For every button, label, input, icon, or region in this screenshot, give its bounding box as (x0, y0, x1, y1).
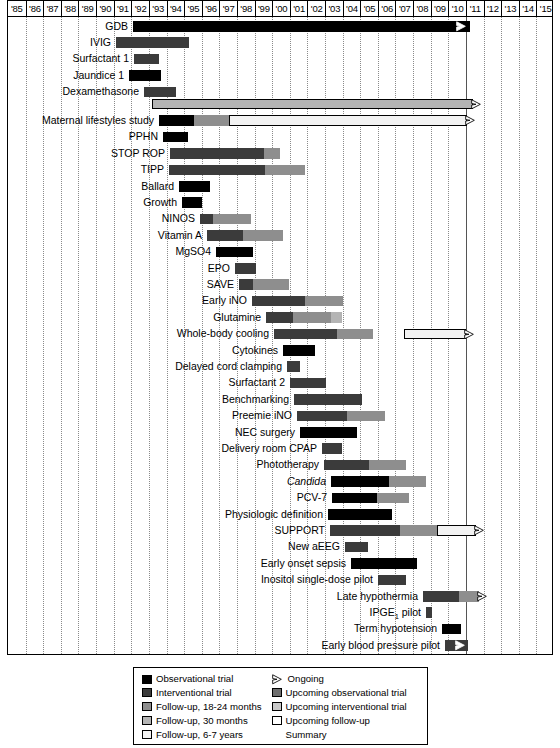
gantt-bar-segment[interactable] (423, 591, 459, 602)
gantt-row[interactable]: Early onset sepsis (8, 556, 553, 572)
gantt-row-label: Ballard (141, 179, 177, 195)
gantt-bar-segment[interactable] (347, 411, 385, 422)
gantt-bar-segment[interactable] (134, 54, 159, 65)
gantt-bar-segment[interactable] (265, 165, 305, 176)
gantt-row[interactable]: PCV-7 (8, 490, 553, 506)
gantt-row[interactable]: Glutamine (8, 310, 553, 326)
gantt-row[interactable]: Delivery room CPAP (8, 441, 553, 457)
gantt-bar-segment[interactable] (287, 361, 300, 372)
gantt-row[interactable]: IPGE1 pilot (8, 605, 553, 621)
gantt-bar-segment[interactable] (116, 37, 189, 48)
gantt-row[interactable]: NINOS (8, 211, 553, 227)
gantt-row[interactable]: Inositol single-dose pilot (8, 572, 553, 588)
gantt-bar-segment[interactable] (179, 181, 210, 192)
gantt-row[interactable]: EPO (8, 261, 553, 277)
gantt-bar-segment[interactable] (194, 115, 229, 126)
gantt-bar-segment[interactable] (207, 230, 243, 241)
gantt-bar-segment[interactable] (400, 525, 437, 536)
gantt-row[interactable]: Delayed cord clamping (8, 359, 553, 375)
gantt-bar-segment[interactable] (305, 296, 343, 307)
gantt-bar-segment[interactable] (377, 493, 409, 504)
gantt-row[interactable]: Early blood pressure pilot (8, 638, 553, 654)
gantt-bar-segment[interactable] (294, 394, 362, 405)
gantt-bar-segment[interactable] (252, 296, 305, 307)
gantt-bar-segment[interactable] (330, 525, 400, 536)
gantt-row[interactable]: Late hypothermia (8, 589, 553, 605)
gantt-bar-segment[interactable] (169, 165, 265, 176)
gantt-bar-segment[interactable] (442, 624, 461, 635)
gantt-bar-segment[interactable] (293, 312, 331, 323)
gantt-bar-segment[interactable] (300, 427, 357, 438)
gantt-bar-segment[interactable] (182, 197, 202, 208)
gantt-row[interactable]: Cytokines (8, 343, 553, 359)
gantt-row[interactable]: TIPP (8, 162, 553, 178)
gantt-row[interactable]: Surfactant 2 (8, 375, 553, 391)
gantt-row[interactable]: Preemie aEEG pilot (8, 654, 553, 655)
gantt-bar-segment[interactable] (235, 263, 256, 274)
gantt-bar-segment[interactable] (213, 214, 251, 225)
legend-swatch-followup-18-24 (142, 702, 152, 711)
legend-item: Follow-up, 18-24 months (142, 701, 262, 713)
gantt-row[interactable]: Term hypotension (8, 621, 553, 637)
gantt-bar-segment[interactable] (331, 476, 389, 487)
gantt-bar-segment[interactable] (266, 312, 293, 323)
gantt-bar-segment[interactable] (351, 558, 417, 569)
gantt-bar-segment[interactable] (389, 476, 426, 487)
gantt-bar-segment[interactable] (324, 460, 369, 471)
gantt-bar-segment[interactable] (133, 21, 470, 32)
gantt-bar-segment[interactable] (129, 70, 161, 81)
gantt-row[interactable]: STOP ROP (8, 146, 553, 162)
gantt-bar-segment[interactable] (283, 345, 315, 356)
gantt-row[interactable]: PPHN (8, 129, 553, 145)
gantt-row[interactable]: Vitamin A (8, 228, 553, 244)
gantt-bar-segment[interactable] (332, 493, 377, 504)
gantt-bar-segment[interactable] (159, 115, 194, 126)
gantt-row[interactable]: Maternal lifestyles study (8, 113, 553, 129)
gantt-bar-segment[interactable] (152, 99, 473, 110)
gantt-bar-segment[interactable] (345, 542, 368, 553)
gantt-row[interactable]: GDB (8, 19, 553, 35)
gantt-row[interactable]: Phototherapy (8, 457, 553, 473)
gantt-row[interactable]: SAVE (8, 277, 553, 293)
gantt-bar-segment[interactable] (297, 411, 347, 422)
gantt-row[interactable]: New aEEG (8, 539, 553, 555)
gantt-bar-segment[interactable] (264, 148, 280, 159)
gantt-row[interactable]: Surfactant 1 (8, 51, 553, 67)
gantt-bar-segment[interactable] (337, 329, 373, 340)
gantt-bar-segment[interactable] (322, 443, 342, 454)
gantt-row[interactable]: SUPPORT (8, 523, 553, 539)
legend-item: Upcoming interventional trial (272, 701, 407, 713)
gantt-row[interactable]: Ballard (8, 179, 553, 195)
gantt-row[interactable]: NEC surgery (8, 425, 553, 441)
gantt-row[interactable]: IVIG (8, 35, 553, 51)
gantt-bar-segment[interactable] (459, 591, 479, 602)
gantt-row[interactable]: MgSO4 (8, 244, 553, 260)
gantt-bar-segment[interactable] (426, 607, 432, 618)
gantt-row[interactable]: Early iNO (8, 293, 553, 309)
gantt-bar-segment[interactable] (404, 329, 466, 340)
gantt-bar-segment[interactable] (378, 575, 406, 586)
gantt-bar-segment[interactable] (290, 378, 326, 389)
gantt-bar-segment[interactable] (437, 525, 476, 536)
gantt-row[interactable]: Candida (8, 474, 553, 490)
gantt-row[interactable]: Physiologic definition (8, 507, 553, 523)
gantt-bar-segment[interactable] (253, 279, 289, 290)
gantt-bar-segment[interactable] (170, 148, 264, 159)
gantt-row[interactable]: Benchmarking (8, 392, 553, 408)
gantt-bar-segment[interactable] (328, 509, 392, 520)
gantt-bar-segment[interactable] (229, 115, 467, 126)
gantt-row[interactable]: Jaundice 1 (8, 68, 553, 84)
gantt-row[interactable]: Whole-body cooling (8, 326, 553, 342)
gantt-bar-segment[interactable] (239, 279, 253, 290)
gantt-row[interactable]: Preemie iNO (8, 408, 553, 424)
gantt-bar-segment[interactable] (163, 132, 188, 143)
gantt-bar-segment[interactable] (331, 312, 342, 323)
gantt-bar-segment[interactable] (200, 214, 213, 225)
gantt-bar-segment[interactable] (274, 329, 337, 340)
gantt-bar-segment[interactable] (216, 247, 253, 258)
gantt-row-label: Glutamine (213, 310, 264, 326)
gantt-row[interactable]: Growth (8, 195, 553, 211)
gantt-row[interactable] (8, 97, 553, 113)
gantt-bar-segment[interactable] (243, 230, 283, 241)
gantt-bar-segment[interactable] (369, 460, 406, 471)
